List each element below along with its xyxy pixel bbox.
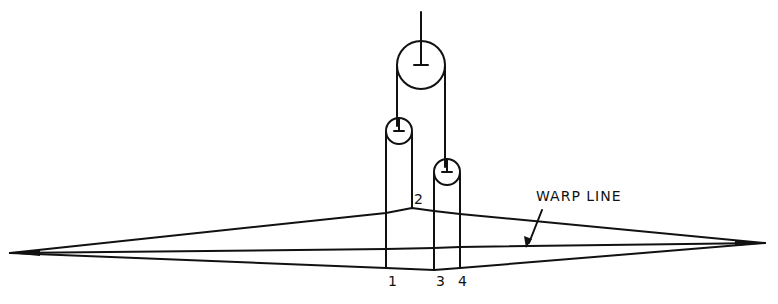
point-1-label: 1	[388, 273, 397, 289]
pulley-warp-diagram: WARP LINE 2 1 3 4	[0, 0, 778, 304]
small-pulley-left	[386, 118, 412, 144]
warp-line-label: WARP LINE	[536, 188, 622, 204]
point-4-label: 4	[458, 273, 467, 289]
upper-shed-line	[10, 208, 765, 253]
lower-shed-line	[10, 243, 765, 270]
point-3-label: 3	[436, 273, 445, 289]
small-pulley-right	[434, 159, 460, 185]
point-2-label: 2	[414, 191, 423, 207]
warp-line-arrow	[524, 210, 542, 248]
